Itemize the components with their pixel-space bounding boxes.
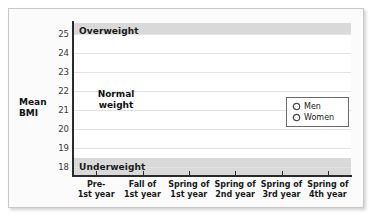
circle-marker-icon (291, 112, 302, 123)
circle-marker-icon (291, 101, 302, 112)
x-axis-tick (328, 171, 329, 175)
y-axis-title-line-2: BMI (19, 108, 63, 119)
y-axis-title: Mean BMI (19, 97, 63, 119)
x-axis-tick-label-line: Spring of (299, 180, 357, 190)
y-axis-tick-label: 24 (47, 48, 69, 58)
gridline (73, 148, 351, 149)
x-axis-tick-labels: Pre-1st yearFall of1st yearSpring of1st … (73, 180, 351, 206)
x-axis-tick (143, 171, 144, 175)
gridline (73, 72, 351, 73)
y-axis-title-line-1: Mean (19, 97, 63, 108)
gridline (73, 53, 351, 54)
normal-weight-annotation: Normal weight (89, 89, 143, 111)
normal-weight-annotation-line-1: Normal (89, 89, 143, 100)
y-axis-tick-label: 19 (47, 143, 69, 153)
x-axis-tick-label-line: 4th year (299, 190, 357, 200)
legend-item-label: Men (304, 102, 321, 111)
normal-weight-annotation-line-2: weight (89, 100, 143, 111)
x-axis-tick (282, 171, 283, 175)
x-axis-tick-label: Spring of4th year (299, 180, 357, 200)
chart-legend: MenWomen (286, 97, 349, 127)
y-axis-tick-label: 22 (47, 86, 69, 96)
legend-item: Women (291, 112, 344, 123)
legend-item-label: Women (304, 113, 334, 122)
legend-item: Men (291, 101, 344, 112)
y-axis-tick-label: 20 (47, 124, 69, 134)
band-overweight-label: Overweight (79, 26, 139, 36)
chart-figure-frame: Overweight Underweight 2524232221201918 … (8, 8, 364, 208)
x-axis-tick (96, 171, 97, 175)
y-axis-tick-label: 25 (47, 29, 69, 39)
y-axis-tick-label: 23 (47, 67, 69, 77)
gridline (73, 129, 351, 130)
y-axis-line (72, 21, 74, 177)
x-axis-tick (235, 171, 236, 175)
x-axis-ticks (73, 171, 351, 176)
x-axis-tick (189, 171, 190, 175)
y-axis-tick-label: 18 (47, 162, 69, 172)
